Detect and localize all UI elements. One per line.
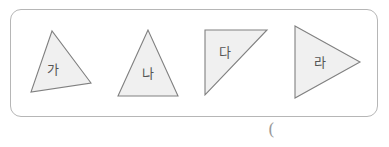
worksheet-page: 가 나 다 라 (	[0, 0, 389, 147]
answer-parenthesis: (	[268, 121, 275, 138]
shape-label-na: 나	[142, 67, 154, 80]
shape-label-da: 다	[219, 46, 231, 59]
shape-label-ra: 라	[314, 56, 326, 69]
shape-label-ga: 가	[47, 63, 59, 76]
